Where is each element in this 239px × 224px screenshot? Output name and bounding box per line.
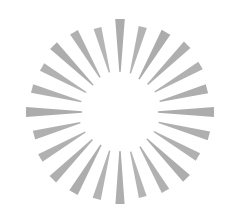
sunburst-graphic bbox=[0, 0, 239, 224]
sunburst-canvas bbox=[0, 0, 239, 224]
